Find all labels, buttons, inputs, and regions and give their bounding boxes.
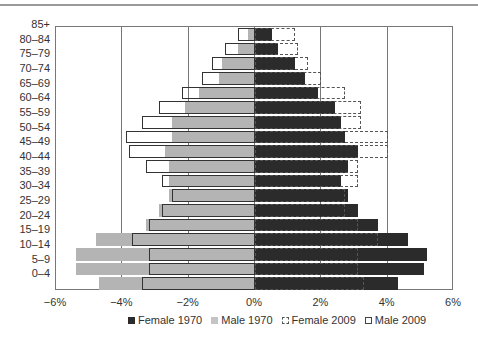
y-axis-label: 60–64 [19, 91, 50, 103]
y-axis-label: 40–44 [19, 150, 50, 162]
x-axis-tick-label: 4% [379, 296, 395, 308]
legend-swatch-male-2009-icon [365, 317, 372, 324]
legend-item-male-1970: Male 1970 [211, 314, 272, 326]
y-axis-label: 70–74 [19, 62, 50, 74]
bar-female-2009 [255, 219, 358, 232]
bar-female-2009 [255, 131, 388, 144]
bar-male-2009 [162, 204, 255, 217]
legend-swatch-female-1970-icon [128, 317, 135, 324]
y-axis-label: 50–54 [19, 121, 50, 133]
x-axis-tick-label: −2% [176, 296, 198, 308]
bar-male-2009 [238, 28, 255, 41]
bar-male-2009 [129, 145, 255, 158]
x-axis-tick-label: 0% [246, 296, 262, 308]
legend-label: Male 1970 [221, 314, 272, 326]
bar-male-2009 [212, 57, 255, 70]
bar-female-2009 [255, 116, 361, 129]
bar-male-2009 [132, 233, 255, 246]
y-axis-label: 5–9 [32, 253, 50, 265]
bar-male-2009 [149, 263, 255, 276]
bar-female-2009 [255, 101, 361, 114]
y-axis-label: 75–79 [19, 47, 50, 59]
bar-female-2009 [255, 145, 388, 158]
x-axis-tick-label: −4% [110, 296, 132, 308]
bar-female-2009 [255, 72, 321, 85]
y-axis-label: 0–4 [32, 267, 50, 279]
bar-female-2009 [255, 87, 345, 100]
bar-male-2009 [142, 277, 255, 290]
y-axis-label: 20–24 [19, 209, 50, 221]
bar-female-2009 [255, 233, 378, 246]
bar-female-2009 [255, 248, 358, 261]
bar-male-2009 [159, 101, 255, 114]
y-axis-label: 10–14 [19, 238, 50, 250]
legend-label: Male 2009 [375, 314, 426, 326]
legend: Female 1970 Male 1970 Female 2009 Male 2… [128, 314, 426, 326]
legend-swatch-male-1970-icon [211, 317, 218, 324]
bar-female-2009 [255, 263, 358, 276]
y-axis-label: 80–84 [19, 33, 50, 45]
bar-male-2009 [225, 43, 255, 56]
legend-swatch-female-2009-icon [282, 317, 289, 324]
bar-male-2009 [126, 131, 255, 144]
bar-female-2009 [255, 160, 358, 173]
bar-male-2009 [162, 175, 255, 188]
bar-female-2009 [255, 43, 298, 56]
plot-area [55, 26, 453, 290]
legend-item-male-2009: Male 2009 [365, 314, 426, 326]
y-axis-label: 65–69 [19, 77, 50, 89]
y-axis-label: 35–39 [19, 165, 50, 177]
bar-female-2009 [255, 28, 295, 41]
top-rule [0, 4, 478, 6]
x-axis-tick-label: −6% [44, 296, 66, 308]
bar-female-2009 [255, 277, 364, 290]
y-axis-label: 55–59 [19, 106, 50, 118]
y-axis-label: 25–29 [19, 194, 50, 206]
bar-female-2009 [255, 57, 308, 70]
bar-female-2009 [255, 204, 345, 217]
bar-male-2009 [149, 248, 255, 261]
x-axis-tick-label: 2% [312, 296, 328, 308]
bar-male-2009 [149, 219, 255, 232]
y-axis-label: 15–19 [19, 223, 50, 235]
legend-label: Female 2009 [292, 314, 356, 326]
x-axis-tick-label: 6% [445, 296, 461, 308]
bar-female-2009 [255, 175, 358, 188]
bar-male-2009 [146, 160, 255, 173]
legend-label: Female 1970 [138, 314, 202, 326]
bar-female-2009 [255, 189, 345, 202]
y-axis-label: 85+ [31, 18, 50, 30]
bar-male-2009 [182, 87, 255, 100]
bar-male-2009 [142, 116, 255, 129]
y-axis-label: 30–34 [19, 179, 50, 191]
legend-item-female-1970: Female 1970 [128, 314, 202, 326]
y-axis-label: 45–49 [19, 135, 50, 147]
bar-male-2009 [172, 189, 255, 202]
legend-item-female-2009: Female 2009 [282, 314, 356, 326]
bar-male-2009 [202, 72, 255, 85]
